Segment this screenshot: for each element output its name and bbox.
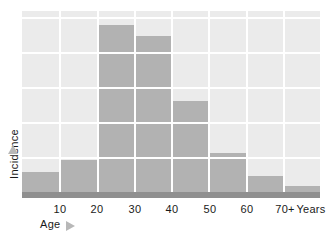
x-tick-label-10: 10 bbox=[54, 203, 67, 215]
gridline-vertical bbox=[171, 11, 173, 192]
x-tick-label-20: 20 bbox=[91, 203, 104, 215]
x-axis-unit-label: Years bbox=[296, 203, 325, 215]
arrow-right-icon bbox=[66, 221, 75, 231]
plot-area bbox=[22, 11, 320, 192]
gridline-vertical bbox=[59, 11, 61, 192]
bar-age-60-70 bbox=[247, 176, 283, 192]
x-tick-label-40: 40 bbox=[166, 203, 179, 215]
bar-age-0-10 bbox=[22, 172, 59, 192]
x-axis-baseline bbox=[22, 192, 320, 198]
gridline-vertical bbox=[97, 11, 99, 192]
x-tick-label-30: 30 bbox=[129, 203, 142, 215]
bar-age-10-20 bbox=[60, 160, 97, 192]
gridline-horizontal bbox=[22, 87, 320, 89]
x-tick-label-50: 50 bbox=[204, 203, 217, 215]
incidence-by-age-histogram: 10 20 30 40 50 60 70+ Years Age Incidenc… bbox=[0, 0, 334, 243]
x-tick-label-70-plus: 70+ bbox=[275, 203, 295, 215]
gridline-vertical bbox=[208, 11, 210, 192]
gridline-horizontal bbox=[22, 17, 320, 19]
bar-age-20-30 bbox=[98, 25, 134, 192]
gridline-vertical bbox=[283, 11, 285, 192]
gridline-vertical bbox=[246, 11, 248, 192]
gridline-horizontal bbox=[22, 52, 320, 54]
bar-age-70-plus bbox=[284, 186, 320, 192]
gridline-vertical bbox=[134, 11, 136, 192]
x-tick-label-60: 60 bbox=[241, 203, 254, 215]
arrow-up-icon bbox=[8, 145, 18, 154]
gridline-horizontal bbox=[22, 122, 320, 124]
x-axis-title: Age bbox=[40, 218, 60, 230]
gridline-horizontal bbox=[22, 157, 320, 159]
bar-age-40-50 bbox=[172, 101, 208, 192]
bar-age-30-40 bbox=[135, 36, 171, 192]
y-axis-title: Incidence bbox=[8, 119, 20, 189]
